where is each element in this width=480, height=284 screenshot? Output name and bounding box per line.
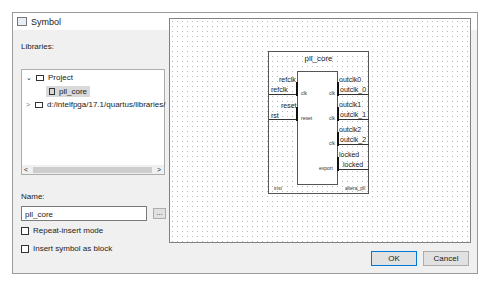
checkbox-label: Repeat-insert mode (33, 226, 103, 235)
tree-item-label: d:/intelfpga/17.1/quartus/libraries/ (47, 100, 165, 109)
checkbox-label: Insert symbol as block (33, 244, 112, 253)
port-label: refclk (279, 76, 296, 83)
scroll-right-button[interactable]: > (157, 166, 161, 173)
browse-button[interactable]: ... (153, 208, 166, 219)
wire-label: outclk_0 (340, 86, 366, 93)
symbol-icon (49, 88, 55, 95)
pin-label: export (319, 165, 333, 171)
tree-item-libraries[interactable]: > d:/intelfpga/17.1/quartus/libraries/ (26, 100, 165, 109)
chevron-down-icon[interactable]: ⌄ (26, 74, 32, 82)
pin-label: clk (301, 90, 307, 96)
tree-item-label: pll_core (59, 87, 87, 96)
checkbox-box[interactable] (21, 227, 29, 235)
port-label: outclk0 (339, 76, 361, 83)
libraries-label: Libraries: (21, 42, 54, 51)
symbol-title: pll_core (269, 54, 368, 63)
folder-icon (35, 102, 43, 108)
name-label: Name: (21, 192, 45, 201)
chevron-right-icon[interactable]: > (26, 101, 30, 108)
scroll-left-button[interactable]: < (24, 166, 28, 173)
repeat-insert-checkbox[interactable]: Repeat-insert mode (21, 226, 103, 235)
pin-label: clk (329, 115, 335, 121)
scrollbar-thumb[interactable] (33, 167, 152, 173)
wire-label: locked (343, 161, 363, 168)
wire-label: outclk_1 (340, 111, 366, 118)
horizontal-scrollbar[interactable]: < > (22, 165, 164, 174)
symbol-dialog: Symbol ✕ Libraries: ⌄ Project pll_core >… (12, 12, 478, 274)
symbol-preview-canvas[interactable]: pll_core refclk refclk clk reset rst res… (169, 18, 471, 243)
wire-label: outclk_2 (340, 136, 366, 143)
tree-item-project[interactable]: ⌄ Project (26, 73, 73, 82)
tree-item-label: Project (48, 73, 73, 82)
cancel-button[interactable]: Cancel (423, 251, 469, 266)
module-name: altera_pll (345, 185, 365, 191)
symbol-app-icon (17, 17, 27, 26)
insert-as-block-checkbox[interactable]: Insert symbol as block (21, 244, 112, 253)
checkbox-box[interactable] (21, 245, 29, 253)
folder-open-icon (36, 75, 44, 81)
port-label: locked (339, 151, 359, 158)
port-label: reset (281, 102, 297, 109)
port-label: outclk2 (339, 126, 361, 133)
wire-label: rst (271, 112, 279, 119)
name-input[interactable]: pll_core (21, 206, 147, 221)
pin-label: reset (301, 115, 312, 121)
port-label: outclk1 (339, 101, 361, 108)
symbol-outer-box: pll_core refclk refclk clk reset rst res… (268, 51, 369, 194)
libraries-tree[interactable]: ⌄ Project pll_core > d:/intelfpga/17.1/q… (21, 69, 165, 175)
pin-label: clk (329, 90, 335, 96)
tree-item-pll-core[interactable]: pll_core (46, 86, 90, 97)
dialog-title: Symbol (31, 17, 61, 27)
ok-button[interactable]: OK (371, 251, 417, 266)
instance-name: inst (274, 185, 282, 191)
pin-label: clk (329, 140, 335, 146)
wire-label: refclk (271, 86, 288, 93)
